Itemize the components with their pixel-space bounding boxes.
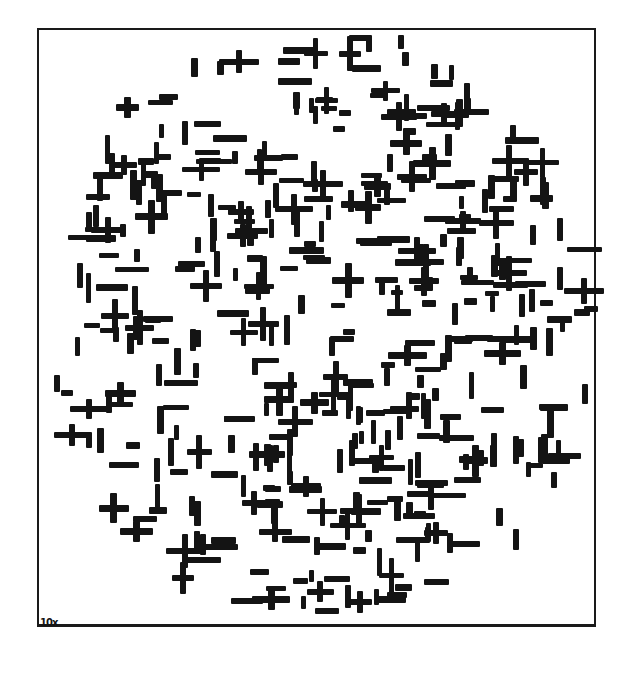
bar-mark — [415, 367, 441, 372]
bar-mark — [117, 382, 124, 405]
bar-mark — [199, 158, 204, 181]
bar-mark — [341, 201, 372, 208]
bar-mark — [154, 142, 159, 164]
bar-mark — [499, 261, 506, 280]
bar-mark — [250, 569, 269, 575]
bar-mark — [352, 65, 381, 72]
bar-mark — [224, 416, 255, 422]
bar-mark — [366, 410, 385, 416]
bar-mark — [282, 536, 310, 543]
bar-mark — [490, 296, 495, 312]
bar-mark — [433, 522, 439, 544]
bar-mark — [581, 278, 587, 304]
bar-mark — [430, 80, 453, 87]
bar-mark — [269, 325, 274, 346]
bar-mark — [241, 475, 246, 497]
bar-mark — [417, 482, 444, 488]
bar-mark — [510, 176, 517, 202]
bar-mark — [440, 414, 461, 420]
bar-mark — [379, 282, 385, 295]
bar-mark — [200, 534, 206, 555]
bar-mark — [530, 463, 543, 468]
bar-mark — [266, 586, 286, 591]
bar-mark — [309, 98, 314, 113]
bar-mark — [273, 183, 279, 208]
bar-mark — [506, 145, 512, 177]
bar-mark — [395, 285, 400, 311]
bar-mark — [265, 200, 271, 218]
bar-mark — [367, 500, 388, 505]
bar-mark — [264, 444, 271, 466]
bar-mark — [68, 235, 94, 240]
bar-mark — [551, 472, 557, 488]
bar-mark — [86, 273, 91, 303]
bar-mark — [447, 533, 453, 553]
bar-mark — [404, 345, 411, 366]
bar-mark — [548, 453, 581, 459]
bar-mark — [263, 485, 275, 491]
bar-mark — [195, 150, 220, 155]
bar-mark — [287, 449, 292, 478]
bar-mark — [75, 337, 80, 356]
bar-mark — [211, 537, 236, 544]
bar-mark — [371, 420, 376, 444]
bar-mark — [530, 225, 536, 245]
bar-mark — [260, 307, 266, 341]
bar-mark — [187, 192, 201, 197]
bar-mark — [518, 439, 524, 457]
bar-mark — [466, 98, 471, 112]
bar-mark — [359, 431, 364, 444]
bar-mark — [99, 253, 119, 258]
bar-mark — [168, 438, 174, 466]
bar-mark — [389, 558, 394, 593]
bar-mark — [485, 291, 499, 296]
bar-mark — [557, 218, 563, 241]
bar-mark — [217, 61, 224, 75]
bar-mark — [515, 281, 546, 287]
bar-mark — [126, 442, 140, 449]
bar-mark — [356, 406, 361, 425]
bar-mark — [213, 135, 247, 142]
artist-signature: 10x — [40, 617, 57, 628]
bar-mark — [482, 189, 488, 213]
bar-mark — [343, 329, 355, 335]
bar-mark — [293, 578, 308, 584]
bar-mark — [333, 126, 345, 132]
bar-mark — [469, 372, 474, 399]
bar-mark — [383, 465, 405, 471]
bar-mark — [313, 106, 318, 124]
bar-mark — [134, 249, 140, 262]
bar-mark — [279, 178, 304, 183]
bar-mark — [406, 393, 420, 400]
bar-mark — [375, 277, 398, 283]
bar-mark — [211, 471, 238, 478]
bar-mark — [148, 200, 155, 234]
bar-mark — [301, 596, 306, 609]
bar-mark — [454, 477, 481, 483]
bar-mark — [228, 435, 235, 453]
bar-mark — [424, 399, 431, 429]
bar-mark — [157, 406, 164, 434]
bar-mark — [395, 584, 412, 591]
bar-mark — [459, 196, 464, 209]
bar-mark — [316, 543, 346, 550]
bar-mark — [384, 368, 390, 386]
bar-mark — [408, 459, 413, 485]
bar-mark — [69, 424, 75, 446]
bar-mark — [272, 521, 278, 542]
bar-mark — [489, 206, 514, 212]
bar-mark — [463, 454, 469, 470]
bar-mark — [195, 330, 201, 347]
bar-mark — [406, 502, 413, 516]
bar-mark — [422, 300, 436, 307]
bar-mark — [294, 211, 300, 237]
bar-mark — [324, 87, 329, 114]
bar-mark — [424, 579, 449, 585]
bar-mark — [143, 171, 158, 178]
bar-mark — [395, 259, 431, 266]
bar-mark — [502, 336, 537, 343]
bar-mark — [360, 240, 392, 246]
bar-mark — [155, 484, 160, 512]
bar-mark — [97, 428, 104, 453]
bar-mark — [415, 540, 420, 562]
